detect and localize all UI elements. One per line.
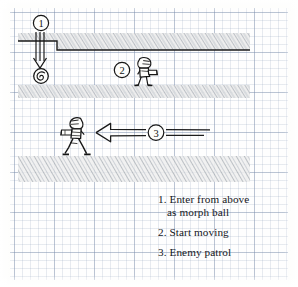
marker-3-label: 3 <box>153 128 158 139</box>
legend-item-1-line1: 1. Enter from above <box>158 193 249 205</box>
marker-2-label: 2 <box>119 65 124 76</box>
legend-item-3-line1: 3. Enemy patrol <box>158 246 231 258</box>
morph-ball-icon <box>34 69 49 84</box>
player-character-facing-right <box>134 58 157 86</box>
legend-item-1-line2: as morph ball <box>158 206 286 219</box>
marker-2-group: 2 <box>114 62 129 77</box>
legend-item-2-line1: 2. Start moving <box>158 226 229 238</box>
player-character-running-left <box>61 118 91 155</box>
list-item: 3. Enemy patrol <box>158 246 286 259</box>
drop-arrow-icon <box>34 32 47 68</box>
marker-1-group: 1 <box>33 15 48 30</box>
lower-floor-terrain <box>18 156 250 183</box>
upper-ceiling-terrain <box>18 33 250 50</box>
legend-list: 1. Enter from above as morph ball 2. Sta… <box>158 193 286 258</box>
list-item: 1. Enter from above as morph ball <box>158 193 286 218</box>
level-sketch-canvas: 1 2 <box>0 0 298 287</box>
marker-1-label: 1 <box>38 18 43 29</box>
marker-3-group: 3 <box>148 125 164 141</box>
list-item: 2. Start moving <box>158 226 286 239</box>
upper-floor-terrain <box>18 85 250 98</box>
